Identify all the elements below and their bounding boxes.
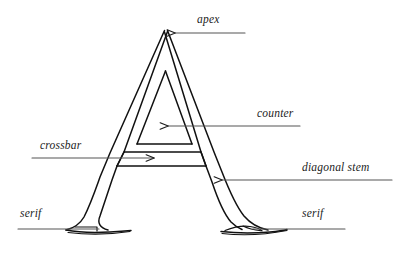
label-serif-left: serif (20, 208, 41, 220)
label-diagonal-stem: diagonal stem (302, 162, 369, 174)
letter-a-glyph (66, 31, 287, 235)
label-apex: apex (197, 14, 220, 26)
left-stem-inner-edge (99, 32, 168, 231)
crossbar-left-edge (117, 152, 124, 166)
right-stem-inner-edge (165, 32, 243, 230)
left-stem-outer-edge (66, 31, 165, 231)
label-counter: counter (257, 108, 294, 120)
letterform-anatomy-diagram: apex counter crossbar diagonal stem seri… (0, 0, 405, 258)
label-serif-right: serif (302, 208, 323, 220)
label-crossbar: crossbar (40, 140, 81, 152)
right-stem-outer-edge (168, 31, 269, 231)
crossbar-right-edge (201, 152, 206, 166)
leader-lines (18, 33, 392, 229)
diagram-canvas (0, 0, 405, 258)
left-serif-foot (66, 230, 131, 232)
